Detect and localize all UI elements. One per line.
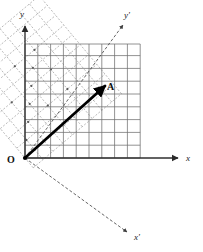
x-prime-axis-label: x' <box>133 232 141 242</box>
coordinate-diagram: O A x y x' y' <box>0 0 203 252</box>
origin-label: O <box>7 154 15 165</box>
y-prime-axis-label: y' <box>123 10 131 20</box>
point-a-label: A <box>107 81 115 92</box>
diagram-canvas: O A x y x' y' <box>0 0 203 252</box>
origin-point-marker <box>23 156 27 160</box>
x-axis-label: x <box>185 153 190 163</box>
y-axis-label: y <box>19 9 24 19</box>
